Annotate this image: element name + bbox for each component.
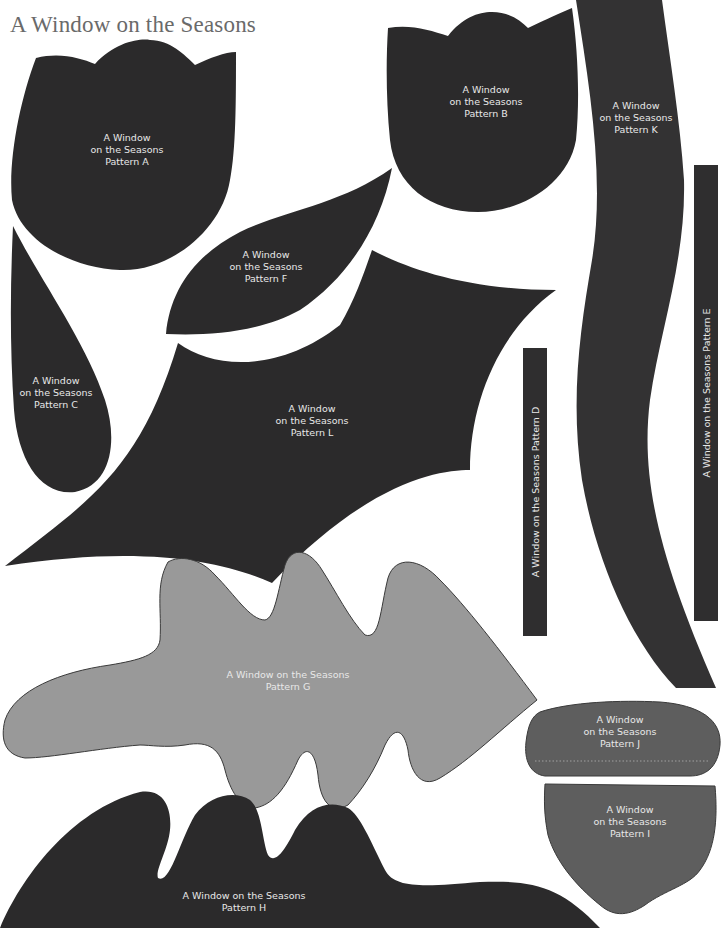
pattern-a-label: A Window on the Seasons Pattern A (91, 132, 164, 168)
pattern-h-label: A Window on the Seasons Pattern H (183, 890, 306, 914)
pattern-e-label: A Window on the Seasons Pattern E (701, 308, 712, 477)
pattern-g-label: A Window on the Seasons Pattern G (227, 669, 350, 693)
pattern-l-label: A Window on the Seasons Pattern L (276, 403, 349, 439)
pattern-i-label: A Window on the Seasons Pattern I (594, 804, 667, 840)
pattern-b-label: A Window on the Seasons Pattern B (450, 84, 523, 120)
pattern-sheet: A Window on the Seasons A Window on the … (0, 0, 724, 928)
pattern-d-label: A Window on the Seasons Pattern D (530, 407, 541, 577)
pattern-c-label: A Window on the Seasons Pattern C (20, 375, 93, 411)
pattern-j-label: A Window on the Seasons Pattern J (584, 714, 657, 750)
pattern-k-label: A Window on the Seasons Pattern K (600, 100, 673, 136)
pattern-f-label: A Window on the Seasons Pattern F (230, 249, 303, 285)
